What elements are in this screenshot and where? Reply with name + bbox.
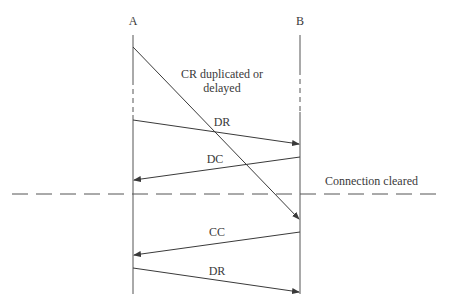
connection-cleared-label: Connection cleared — [325, 175, 418, 188]
sequence-diagram — [0, 0, 450, 303]
cr-annotation-line1: CR duplicated or — [181, 68, 263, 81]
cr-annotation-line2: delayed — [203, 82, 240, 95]
message-cc-label: CC — [209, 226, 225, 239]
participant-b-label: B — [296, 15, 304, 28]
participant-a-label: A — [129, 15, 138, 28]
message-dr-label: DR — [214, 116, 231, 129]
message-dc-label: DC — [207, 153, 224, 166]
message-dr2-label: DR — [209, 265, 226, 278]
